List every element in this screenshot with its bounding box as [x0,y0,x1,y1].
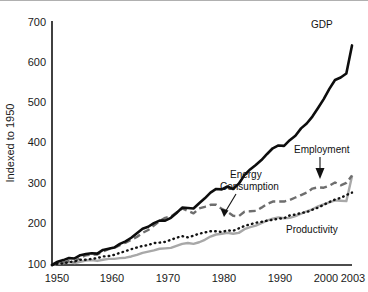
line-chart: 700 600 500 400 300 200 100 Indexed to 1… [0,1,368,292]
annotation-label-productivity: Productivity [286,224,338,235]
y-axis-title: Indexed to 1950 [4,104,16,183]
y-tick-600: 600 [28,56,46,68]
annotation-label-gdp: GDP [311,19,333,30]
annotation-label-energy-line2: Consumption [220,181,279,192]
y-tick-labels: 700 600 500 400 300 200 100 [28,16,46,270]
annotation-label-energy-line1: Energy [230,169,262,180]
annotation-label-employment: Employment [294,144,350,155]
y-tick-300: 300 [28,177,46,189]
x-axis-group: 1950 1960 1970 1980 1990 2000 2003 [45,265,365,284]
series-line-employment [52,176,352,265]
annotation-gdp: GDP [311,19,333,30]
series-line-energy [52,176,352,265]
y-tick-100: 100 [28,258,46,270]
x-tick-labels: 1950 1960 1970 1980 1990 2000 2003 [45,272,365,284]
y-tick-200: 200 [28,217,46,229]
y-tick-400: 400 [28,136,46,148]
x-tick-1990: 1990 [268,272,292,284]
annotation-employment: Employment [294,144,350,179]
annotation-productivity: Productivity [286,224,338,235]
x-tick-1980: 1980 [212,272,236,284]
x-tick-2000: 2000 [314,272,338,284]
y-axis-group: 700 600 500 400 300 200 100 Indexed to 1… [4,16,52,270]
x-tick-2003: 2003 [341,272,365,284]
annotation-energy: Energy Consumption [220,169,279,217]
annotation-arrowhead-energy [221,209,229,218]
y-tick-700: 700 [28,16,46,28]
x-tick-1960: 1960 [100,272,124,284]
annotation-arrowhead-employment [316,168,325,179]
y-tick-500: 500 [28,96,46,108]
x-tick-1950: 1950 [45,272,69,284]
x-tick-1970: 1970 [156,272,180,284]
chart-container: 700 600 500 400 300 200 100 Indexed to 1… [0,0,368,292]
